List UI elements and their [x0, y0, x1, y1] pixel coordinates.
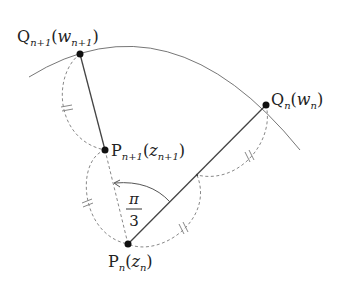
label-Qn1: Qn+1(wn+1) [17, 27, 99, 48]
dashed-segment-Pn1-Pn [105, 150, 128, 244]
point-midpoint [196, 174, 198, 176]
angle-numerator: π [128, 190, 140, 208]
outer-circle-arc [29, 46, 300, 150]
angle-arc [115, 183, 170, 202]
label-Qn: Qn(wn) [271, 90, 323, 111]
label-Pn: Pn(zn) [108, 252, 153, 273]
label-Pn1: Pn+1(zn+1) [111, 141, 185, 162]
point-Qn [263, 102, 270, 109]
diagram-canvas: π 3 Qn+1(wn+1) Pn+1(zn+1) Qn(wn) Pn(zn) [0, 0, 341, 281]
point-Qn1 [77, 51, 84, 58]
point-Pn [125, 241, 132, 248]
dashed-arc-M-Pn [128, 175, 201, 247]
angle-arrow-icon [114, 180, 120, 187]
dashed-arc-Pn1-Pn [86, 150, 128, 244]
angle-denominator: 3 [129, 212, 139, 230]
point-Pn1 [102, 147, 109, 154]
dashed-arc-Qn-M [197, 105, 267, 176]
segment-Qn1-Pn1 [80, 54, 105, 150]
